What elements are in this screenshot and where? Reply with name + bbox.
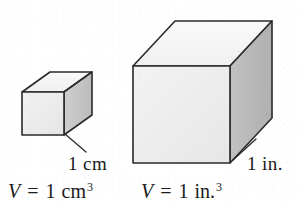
large-cube [133, 21, 272, 163]
cube-comparison-figure: 1 cm 1 in. V=1cm3 V=1in.3 [0, 0, 302, 205]
small-cube [22, 72, 92, 135]
formula-value-large: 1 [179, 180, 189, 202]
formula-unit-small: cm [62, 180, 87, 202]
formula-value-small: 1 [46, 180, 56, 202]
svg-text:V=1cm3: V=1cm3 [8, 180, 93, 202]
formula-equals-large: = [160, 180, 171, 202]
large-cube-volume-formula: V=1in.3 [141, 180, 222, 202]
small-cube-volume-formula: V=1cm3 [8, 180, 93, 202]
formula-exponent-large: 3 [216, 180, 222, 194]
small-cube-dimension-label: 1 cm [68, 153, 107, 174]
formula-variable-v-large: V [141, 180, 156, 202]
small-cube-front-face [22, 92, 64, 135]
svg-text:V=1in.3: V=1in.3 [141, 180, 222, 202]
small-cube-leader-line [65, 134, 86, 152]
formula-exponent-small: 3 [87, 180, 93, 194]
figure-canvas: 1 cm 1 in. V=1cm3 V=1in.3 [0, 0, 302, 205]
formula-equals-small: = [27, 180, 38, 202]
large-cube-front-face [133, 66, 230, 163]
formula-variable-v-small: V [8, 180, 23, 202]
formula-unit-large: in. [195, 180, 216, 202]
large-cube-dimension-label: 1 in. [247, 153, 283, 174]
